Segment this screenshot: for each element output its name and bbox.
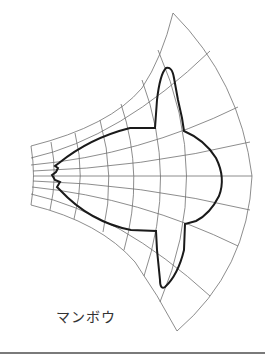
grid-left-edge bbox=[31, 146, 34, 205]
grid-hline bbox=[33, 142, 250, 171]
bottom-divider bbox=[0, 352, 265, 354]
grid-hline bbox=[31, 51, 210, 158]
grid-right-edge bbox=[173, 13, 252, 331]
deformed-grid bbox=[31, 13, 252, 331]
grid-hline bbox=[31, 107, 238, 165]
grid-hline bbox=[32, 187, 238, 246]
sunfish-outline bbox=[52, 68, 222, 288]
grid-hline bbox=[31, 194, 210, 296]
figure-caption: マンボウ bbox=[56, 306, 116, 326]
sunfish-transformation-diagram bbox=[0, 0, 265, 356]
